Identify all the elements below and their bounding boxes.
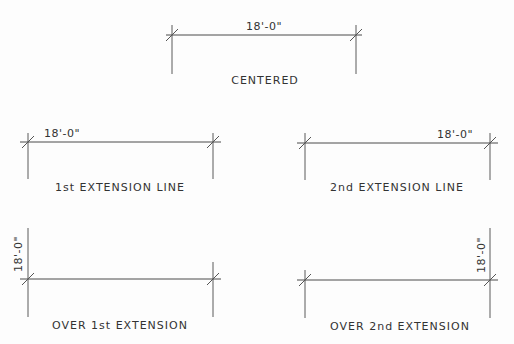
- caption: OVER 1st EXTENSION: [52, 319, 188, 332]
- diagram-svg: 18'-0" CENTERED 18'-0" 1st EXTENSION LIN…: [0, 0, 514, 344]
- dimension-text: 18'-0": [437, 128, 473, 141]
- caption: OVER 2nd EXTENSION: [330, 320, 470, 333]
- example-over-first-extension: 18'-0" OVER 1st EXTENSION: [12, 228, 221, 332]
- dimension-text: 18'-0": [44, 127, 80, 140]
- caption: 2nd EXTENSION LINE: [330, 181, 464, 194]
- caption: 1st EXTENSION LINE: [55, 181, 185, 194]
- example-centered: 18'-0" CENTERED: [166, 20, 362, 87]
- caption: CENTERED: [231, 74, 299, 87]
- dimension-text: 18'-0": [475, 237, 488, 273]
- dimension-diagram: 18'-0" CENTERED 18'-0" 1st EXTENSION LIN…: [0, 0, 514, 344]
- dimension-text: 18'-0": [246, 20, 282, 33]
- example-first-extension: 18'-0" 1st EXTENSION LINE: [20, 127, 221, 194]
- example-second-extension: 18'-0" 2nd EXTENSION LINE: [297, 128, 498, 194]
- dimension-text: 18'-0": [12, 236, 25, 272]
- example-over-second-extension: 18'-0" OVER 2nd EXTENSION: [297, 228, 498, 333]
